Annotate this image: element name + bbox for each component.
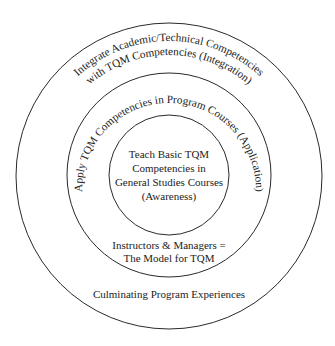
- inner-label-line3: General Studies Courses: [115, 176, 223, 188]
- inner-label-line4: (Awareness): [142, 190, 197, 203]
- inner-label-line2: Competencies in: [132, 162, 206, 174]
- outer-bottom-label: Culminating Program Experiences: [93, 288, 245, 300]
- inner-label-line1: Teach Basic TQM: [129, 148, 210, 160]
- tqm-concentric-diagram: Integrate Academic/Technical Competencie…: [0, 0, 335, 346]
- middle-bottom-label-line1: Instructors & Managers =: [112, 239, 225, 251]
- middle-bottom-label-line2: The Model for TQM: [123, 252, 214, 264]
- inner-circle: [109, 115, 229, 235]
